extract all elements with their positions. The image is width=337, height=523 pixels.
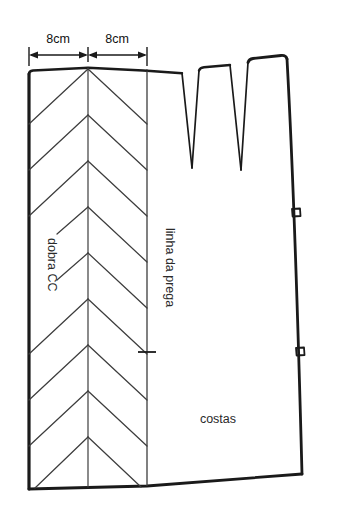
arrowhead-right-inner bbox=[88, 52, 97, 59]
dart-1-left-leg bbox=[182, 73, 192, 168]
chevron-left-7 bbox=[29, 345, 88, 400]
hem-edge bbox=[29, 474, 302, 489]
waist-edge-segment-2 bbox=[199, 65, 230, 71]
chevron-left-9 bbox=[35, 437, 88, 488]
arrowhead-left-outer bbox=[29, 52, 38, 59]
side-seam-right bbox=[287, 59, 302, 474]
dimension-label-left: 8cm bbox=[46, 32, 70, 46]
waist-edge-segment-3 bbox=[248, 55, 287, 62]
waist-edge-segment-1 bbox=[147, 71, 182, 73]
chevron-right-8 bbox=[88, 391, 147, 446]
chevron-right-2 bbox=[88, 115, 147, 170]
chevron-right-4 bbox=[88, 207, 147, 262]
pleat-line-label: linha da prega bbox=[163, 228, 177, 307]
arrowhead-right-outer bbox=[138, 52, 147, 59]
pattern-diagram: 8cm 8cm dobra CC linha da prega costas bbox=[0, 0, 337, 523]
chevron-left-5 bbox=[57, 253, 88, 280]
dart-2-left-leg bbox=[230, 65, 241, 170]
chevron-left-6 bbox=[29, 299, 88, 354]
chevron-right-5 bbox=[88, 253, 147, 308]
dimension-label-right: 8cm bbox=[105, 32, 129, 46]
chevron-right-9 bbox=[88, 437, 141, 487]
notch-marks bbox=[138, 209, 305, 356]
back-piece-label: costas bbox=[200, 412, 236, 426]
chevron-right-7 bbox=[88, 345, 147, 400]
chevron-right-6 bbox=[88, 299, 147, 354]
arrowhead-left-inner bbox=[79, 52, 88, 59]
chevron-right-1 bbox=[88, 69, 147, 124]
pleat-panel-lines bbox=[88, 68, 147, 488]
chevron-left-8 bbox=[29, 391, 88, 446]
pattern-drawing: 8cm 8cm dobra CC linha da prega costas bbox=[0, 0, 337, 523]
dart-1-right-leg bbox=[192, 71, 199, 169]
chevron-left-1 bbox=[29, 69, 88, 124]
chevron-left-4 bbox=[57, 207, 88, 234]
chevron-left-3 bbox=[29, 161, 88, 216]
chevron-right-3 bbox=[88, 161, 147, 216]
fold-line-label: dobra CC bbox=[45, 238, 59, 292]
chevron-left-2 bbox=[29, 115, 88, 170]
dimension-guides bbox=[29, 47, 147, 66]
dart-2-right-leg bbox=[241, 63, 248, 171]
